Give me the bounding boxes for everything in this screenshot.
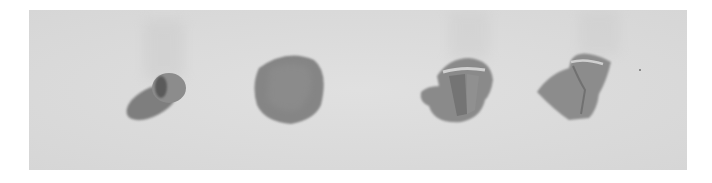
clay-bud: [121, 73, 186, 128]
photo-scene: [29, 10, 687, 170]
clay-wrapped-petal: [421, 58, 493, 122]
clay-disc: [254, 56, 323, 125]
speck: [639, 69, 641, 71]
photograph: [29, 10, 687, 170]
clay-rose: [537, 54, 611, 120]
